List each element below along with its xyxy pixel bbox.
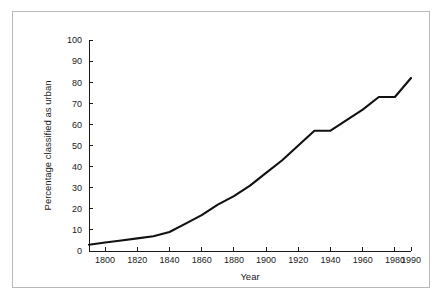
x-tick-label: 1860 xyxy=(192,255,212,265)
x-tick-label: 1920 xyxy=(288,255,308,265)
x-tick-label: 1940 xyxy=(320,255,340,265)
y-tick-label: 40 xyxy=(72,162,82,172)
x-tick-label: 1960 xyxy=(353,255,373,265)
x-tick-label: 1880 xyxy=(224,255,244,265)
x-tick-label: 1800 xyxy=(95,255,115,265)
data-series-line xyxy=(89,78,411,245)
chart-plot-area: 0102030405060708090100180018201840186018… xyxy=(13,12,431,289)
y-tick-label: 0 xyxy=(77,246,82,256)
x-tick-label: 1820 xyxy=(127,255,147,265)
tick-labels-group: 0102030405060708090100180018201840186018… xyxy=(67,35,421,265)
caption-sliver xyxy=(14,297,314,301)
x-axis-title: Year xyxy=(240,271,259,282)
y-tick-label: 30 xyxy=(72,183,82,193)
data-series-group xyxy=(89,78,411,245)
urbanization-line-chart: 0102030405060708090100180018201840186018… xyxy=(13,12,431,289)
x-tick-label: 1900 xyxy=(256,255,276,265)
y-tick-label: 60 xyxy=(72,120,82,130)
y-tick-label: 70 xyxy=(72,99,82,109)
x-tick-label: 1990 xyxy=(401,255,421,265)
y-tick-label: 100 xyxy=(67,35,82,45)
ticks-group xyxy=(89,40,411,251)
y-tick-label: 20 xyxy=(72,204,82,214)
y-axis-title: Percentage classified as urban xyxy=(42,81,53,211)
y-tick-label: 80 xyxy=(72,78,82,88)
y-tick-label: 50 xyxy=(72,141,82,151)
y-tick-label: 10 xyxy=(72,225,82,235)
axes-group xyxy=(89,40,411,251)
figure-frame: 0102030405060708090100180018201840186018… xyxy=(12,11,430,288)
y-tick-label: 90 xyxy=(72,56,82,66)
x-tick-label: 1840 xyxy=(159,255,179,265)
